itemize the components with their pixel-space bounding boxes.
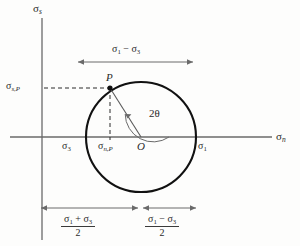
point-p-marker (107, 85, 112, 90)
top-dimension-left-arrowhead (78, 59, 84, 64)
top-dimension-label: σ1 − σ3 (112, 44, 140, 55)
bottom-right-fraction-label: σ1 − σ3 2 (145, 214, 179, 238)
bottom-left-numerator: σ1 + σ3 (61, 214, 95, 227)
point-p-label: P (106, 72, 113, 83)
bottom-right-dimension-right-arrowhead (190, 205, 196, 210)
sigma-3-sub-glyph: 3 (67, 145, 70, 152)
sigma-s-p-label: σs,P (6, 81, 20, 92)
shear-stress-axis-label: σs (33, 3, 42, 15)
bottom-right-numerator: σ1 − σ3 (145, 214, 179, 227)
sigma-s-p-sub-glyph: s,P (11, 85, 20, 92)
normal-axis-sub-glyph: n (282, 135, 286, 144)
sigma-1-sub-glyph: 1 (203, 145, 206, 152)
bottom-left-denominator: 2 (61, 227, 95, 239)
point-p-text: P (106, 71, 113, 83)
bottom-left-dimension-right-arrowhead (132, 205, 138, 210)
bl-sub-b: 3 (89, 218, 92, 225)
br-sub-a: 1 (153, 218, 156, 225)
top-dim-sub-a: 1 (117, 48, 120, 55)
sigma-3-label: σ3 (62, 141, 71, 152)
bottom-right-dimension-left-arrowhead (143, 205, 149, 210)
sigma-n-p-label: σn,P (98, 141, 113, 152)
sigma-1-label: σ1 (198, 141, 207, 152)
radius-line-op (110, 88, 141, 137)
top-dim-sub-b: 3 (137, 48, 140, 55)
circle-center-label: O (137, 141, 145, 152)
bottom-right-denominator: 2 (145, 227, 179, 239)
bl-sub-a: 1 (69, 218, 72, 225)
mohr-circle-figure: σs σn σs,P P O σ3 σ1 σn,P 2θ σ1 − σ3 σ1 … (0, 0, 300, 246)
top-dimension-right-arrowhead (187, 59, 193, 64)
angle-2theta-label: 2θ (149, 108, 160, 119)
br-sub-b: 3 (173, 218, 176, 225)
angle-arc-2theta (125, 114, 169, 142)
circle-center-text: O (137, 140, 145, 152)
diagram-canvas (0, 0, 300, 246)
normal-stress-axis-label: σn (276, 131, 286, 143)
shear-axis-sub-glyph: s (39, 7, 42, 16)
angle-2theta-text: 2θ (149, 107, 160, 119)
bottom-left-fraction-label: σ1 + σ3 2 (61, 214, 95, 238)
br-operator: − (159, 213, 165, 224)
top-dim-operator: − (123, 43, 129, 54)
bl-operator: + (75, 213, 81, 224)
sigma-n-p-sub-glyph: n,P (103, 145, 112, 152)
